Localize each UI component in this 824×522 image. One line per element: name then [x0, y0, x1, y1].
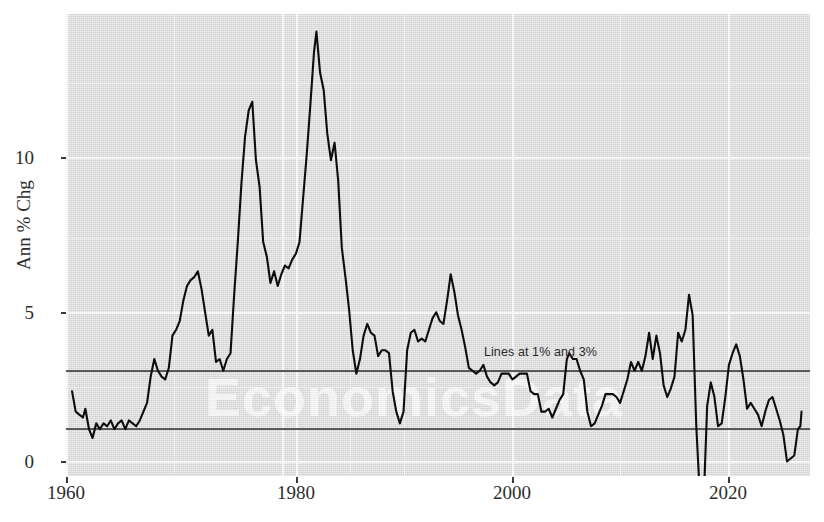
ytick-label-0: 0 [0, 451, 34, 473]
annotation-reference-note: Lines at 1% and 3% [484, 345, 597, 359]
xtick-label-2000: 2000 [472, 482, 552, 504]
series-plot-area [66, 14, 810, 476]
ytick-mark-10 [61, 157, 66, 159]
xtick-label-1960: 1960 [26, 482, 106, 504]
figure-caption [8, 512, 528, 522]
ytick-mark-5 [61, 312, 66, 314]
xtick-label-2020: 2020 [688, 482, 768, 504]
xtick-label-1980: 1980 [256, 482, 336, 504]
ytick-mark-0 [61, 461, 66, 463]
chart-root: EconomicsData Lines at 1% and 3% 0 5 10 … [0, 0, 824, 522]
plot-panel: EconomicsData Lines at 1% and 3% [66, 14, 810, 476]
y-axis-title: Ann % Chg [13, 105, 35, 345]
series-line-ann-pct-chg [72, 32, 801, 476]
